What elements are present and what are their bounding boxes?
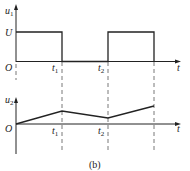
top-tick-label-t1: t1 [52, 62, 59, 75]
bottom-triangle-wave [16, 106, 154, 124]
top-origin-label: O [5, 62, 12, 73]
bottom-origin-label: O [5, 123, 12, 134]
top-level-label: U [5, 27, 13, 38]
bottom-tick-label-t2: t2 [98, 125, 105, 138]
bottom-x-label: t [177, 123, 180, 134]
bottom-tick-label-t1: t1 [52, 125, 59, 138]
bottom-y-arrow-icon [14, 97, 18, 103]
top-tick-label-t2: t2 [98, 62, 105, 75]
top-x-label: t [177, 62, 180, 73]
dashed-guides [16, 62, 154, 150]
waveform-diagram: u1 U O t1 t2 t u2 O t1 t2 t (b) [0, 0, 190, 171]
figure-caption: (b) [89, 159, 101, 171]
top-y-label: u1 [5, 5, 14, 18]
top-plot: u1 U O t1 t2 t [5, 4, 181, 75]
top-square-wave [16, 32, 154, 62]
top-y-arrow-icon [14, 4, 18, 10]
bottom-y-label: u2 [5, 94, 14, 107]
bottom-plot: u2 O t1 t2 t [5, 94, 181, 154]
